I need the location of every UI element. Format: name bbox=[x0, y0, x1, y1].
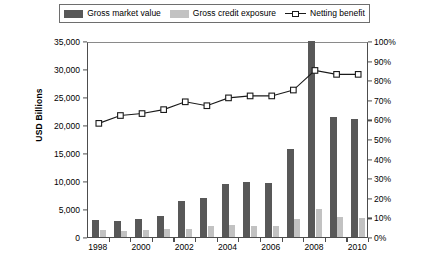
netting-benefit-marker-1998 bbox=[96, 121, 102, 127]
x-axis-tick-label-2004: 2004 bbox=[208, 242, 248, 252]
x-axis-tickmark bbox=[282, 238, 283, 242]
line-square-marker-icon bbox=[285, 9, 306, 18]
netting-benefit-line bbox=[88, 43, 369, 239]
x-axis-tickmark bbox=[238, 238, 239, 242]
bottom-margin bbox=[0, 262, 426, 270]
dark-square-swatch-icon bbox=[64, 10, 83, 18]
x-axis-tickmark bbox=[325, 238, 326, 242]
netting-benefit-marker-2008 bbox=[312, 68, 318, 74]
x-axis-tick-label-2000: 2000 bbox=[121, 242, 161, 252]
y-axis-tick-label-right-10pct: 10% bbox=[374, 213, 410, 223]
y-axis-tickmark-left bbox=[83, 237, 87, 238]
netting-benefit-marker-1999 bbox=[118, 113, 124, 119]
x-axis-tick-label-2008: 2008 bbox=[294, 242, 334, 252]
y-axis-tick-label-right-60pct: 60% bbox=[374, 115, 410, 125]
x-axis-tick-label-1998: 1998 bbox=[78, 242, 118, 252]
chart-container: Gross market value Gross credit exposure… bbox=[0, 0, 426, 270]
netting-benefit-marker-2005 bbox=[247, 93, 253, 99]
y-axis-tick-label-right-20pct: 20% bbox=[374, 194, 410, 204]
netting-benefit-marker-2000 bbox=[139, 111, 145, 117]
netting-benefit-marker-2010 bbox=[355, 72, 361, 78]
y-axis-tickmark-right bbox=[368, 120, 372, 121]
legend-label-gross-credit-exposure: Gross credit exposure bbox=[193, 9, 276, 18]
y-axis-tickmark-right bbox=[368, 100, 372, 101]
x-axis-tick-label-2002: 2002 bbox=[164, 242, 204, 252]
y-axis-tickmark-right bbox=[368, 218, 372, 219]
y-axis-tickmark-left bbox=[83, 153, 87, 154]
y-axis-tickmark-right bbox=[368, 159, 372, 160]
y-axis-tick-label-left-20000: 20,000 bbox=[34, 121, 80, 131]
legend-item-gross-credit-exposure: Gross credit exposure bbox=[170, 9, 276, 18]
y-axis-tick-label-right-40pct: 40% bbox=[374, 155, 410, 165]
chart-legend: Gross market value Gross credit exposure… bbox=[59, 4, 370, 23]
y-axis-tick-label-right-0pct: 0% bbox=[374, 233, 410, 243]
netting-benefit-marker-2007 bbox=[291, 87, 297, 93]
y-axis-tickmark-right bbox=[368, 198, 372, 199]
y-axis-tickmark-right bbox=[368, 41, 372, 42]
netting-benefit-marker-2001 bbox=[161, 107, 167, 113]
y-axis-tickmark-right bbox=[368, 139, 372, 140]
y-axis-tick-label-right-100pct: 100% bbox=[374, 37, 410, 47]
light-square-swatch-icon bbox=[170, 10, 189, 18]
y-axis-tick-label-right-80pct: 80% bbox=[374, 76, 410, 86]
netting-benefit-marker-2004 bbox=[226, 95, 232, 101]
netting-benefit-marker-2002 bbox=[182, 99, 188, 105]
legend-item-netting-benefit: Netting benefit bbox=[285, 9, 365, 18]
y-axis-tickmark-left bbox=[83, 69, 87, 70]
y-axis-tickmark-left bbox=[83, 209, 87, 210]
y-axis-tickmark-left bbox=[83, 41, 87, 42]
y-axis-tickmark-left bbox=[83, 97, 87, 98]
y-axis-tick-label-left-15000: 15,000 bbox=[34, 149, 80, 159]
netting-benefit-marker-2009 bbox=[334, 72, 340, 78]
netting-benefit-marker-2003 bbox=[204, 103, 210, 109]
y-axis-tickmark-left bbox=[83, 181, 87, 182]
x-axis-tickmark bbox=[368, 238, 369, 242]
y-axis-tick-label-left-0: 0 bbox=[34, 233, 80, 243]
plot-area bbox=[87, 42, 368, 238]
y-axis-tickmark-right bbox=[368, 61, 372, 62]
y-axis-tickmark-right bbox=[368, 81, 372, 82]
y-axis-tickmark-right bbox=[368, 179, 372, 180]
y-axis-tick-label-left-5000: 5,000 bbox=[34, 205, 80, 215]
y-axis-title: USD Billions bbox=[34, 70, 44, 160]
y-axis-tick-label-left-25000: 25,000 bbox=[34, 93, 80, 103]
y-axis-tick-label-left-30000: 30,000 bbox=[34, 65, 80, 75]
y-axis-tickmark-left bbox=[83, 125, 87, 126]
legend-item-gross-market-value: Gross market value bbox=[64, 9, 161, 18]
y-axis-tick-label-left-10000: 10,000 bbox=[34, 177, 80, 187]
legend-label-gross-market-value: Gross market value bbox=[87, 9, 161, 18]
y-axis-tick-label-right-30pct: 30% bbox=[374, 174, 410, 184]
x-axis-tickmark bbox=[109, 238, 110, 242]
y-axis-tick-label-left-35000: 35,000 bbox=[34, 37, 80, 47]
y-axis-tick-label-right-90pct: 90% bbox=[374, 57, 410, 67]
y-axis-tick-label-right-70pct: 70% bbox=[374, 96, 410, 106]
x-axis-tick-label-2010: 2010 bbox=[337, 242, 377, 252]
y-axis-tick-label-right-50pct: 50% bbox=[374, 135, 410, 145]
netting-benefit-marker-2006 bbox=[269, 93, 275, 99]
x-axis-tick-label-2006: 2006 bbox=[251, 242, 291, 252]
legend-label-netting-benefit: Netting benefit bbox=[310, 9, 365, 18]
x-axis-tickmark bbox=[152, 238, 153, 242]
x-axis-tickmark bbox=[195, 238, 196, 242]
